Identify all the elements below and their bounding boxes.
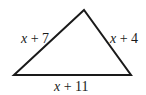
- right-side-label: x + 4: [109, 31, 138, 46]
- left-side-label: x + 7: [20, 31, 49, 46]
- bottom-side-label: x + 11: [53, 79, 89, 94]
- triangle-diagram: x + 7 x + 4 x + 11: [0, 0, 146, 95]
